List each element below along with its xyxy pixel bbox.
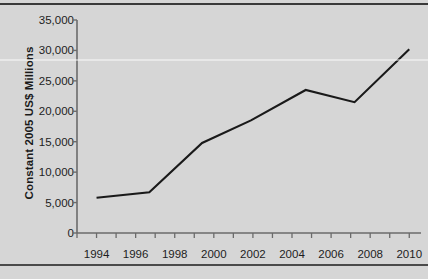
chart-figure: Constant 2005 US$ Millions 35,00030,0002…: [0, 0, 428, 279]
data-series-group: [97, 49, 410, 197]
plot-area: Constant 2005 US$ Millions 35,00030,0002…: [0, 0, 428, 279]
data-line-series-0: [97, 49, 410, 197]
chart-canvas: [0, 0, 428, 279]
axes-group: [77, 20, 421, 233]
